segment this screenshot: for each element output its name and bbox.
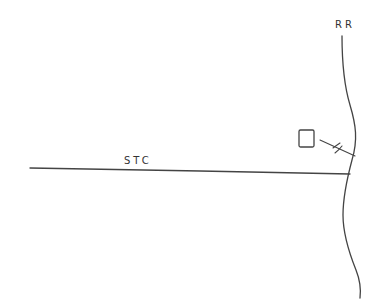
connector-line (320, 140, 355, 156)
sketch-canvas (0, 0, 380, 308)
rr-line (342, 36, 360, 298)
square-marker (299, 130, 314, 147)
rr-label: RR (335, 19, 355, 30)
stc-label: STC (124, 155, 152, 166)
stc-line (30, 168, 350, 174)
